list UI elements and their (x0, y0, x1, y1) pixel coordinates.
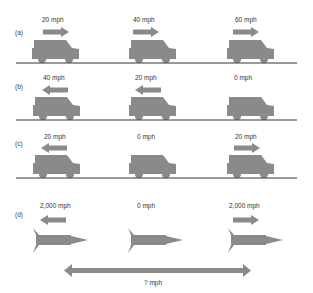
arrow-right-icon (133, 27, 159, 37)
car-icon (227, 155, 274, 178)
arrow-left-icon (42, 85, 68, 95)
rocket-icon (128, 228, 183, 253)
car-icon (129, 155, 176, 178)
rocket-icon (228, 228, 283, 253)
row-b (16, 85, 297, 120)
car-icon (33, 97, 80, 120)
motion-diagram (0, 0, 313, 293)
car-icon (33, 155, 80, 178)
arrow-left-icon (40, 215, 66, 225)
arrow-left-icon (41, 143, 67, 153)
arrow-right-icon (234, 143, 260, 153)
car-icon (129, 40, 176, 63)
arrow-right-icon (233, 215, 259, 225)
car-icon (32, 40, 79, 63)
car-icon (129, 97, 176, 120)
arrow-right-icon (233, 27, 259, 37)
row-d (33, 215, 283, 253)
row-c (16, 143, 297, 178)
double-arrow-icon (64, 264, 251, 277)
rocket-icon (33, 228, 88, 253)
row-a (16, 27, 297, 63)
arrow-right-icon (43, 27, 69, 37)
arrow-left-icon (135, 85, 161, 95)
car-icon (227, 97, 274, 120)
car-icon (227, 40, 274, 63)
